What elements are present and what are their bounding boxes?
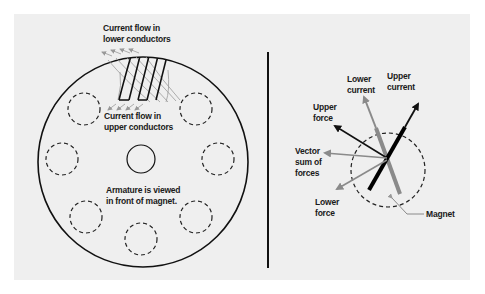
slot-circle bbox=[68, 93, 100, 125]
motor-force-diagram: Current flow in lower conductors Current… bbox=[0, 0, 485, 294]
vector-sum-arrow bbox=[325, 153, 387, 158]
label-armature-note: Armature is viewed in front of magnet. bbox=[106, 185, 183, 206]
slot-circle bbox=[70, 201, 102, 233]
armature-circle bbox=[38, 57, 248, 267]
conductor-windings bbox=[102, 49, 180, 110]
magnet-black-bar bbox=[369, 127, 405, 190]
magnet-gray-bar bbox=[376, 128, 400, 194]
label-upper-current: Upper current bbox=[387, 71, 415, 92]
label-upper-force: Upper force bbox=[313, 102, 339, 123]
label-lower-force: Lower force bbox=[315, 197, 341, 218]
slot-circle bbox=[180, 93, 212, 125]
armature-diagram: Current flow in lower conductors Current… bbox=[38, 23, 248, 267]
slot-circle bbox=[46, 143, 78, 175]
slot-circle bbox=[180, 201, 212, 233]
slot-circle bbox=[125, 223, 157, 255]
label-magnet: Magnet bbox=[426, 209, 455, 219]
slot-circle bbox=[202, 143, 234, 175]
label-lower-current: Lower current bbox=[347, 74, 375, 95]
lower-current-arrow bbox=[364, 97, 376, 128]
rotation-path-circle bbox=[351, 133, 425, 207]
label-vector-sum: Vector sum of forces bbox=[295, 146, 324, 178]
label-lower-conductors: Current flow in lower conductors bbox=[103, 23, 171, 44]
shaft-circle bbox=[127, 145, 155, 173]
upper-current-arrow bbox=[405, 104, 418, 127]
label-upper-conductors: Current flow in upper conductors bbox=[104, 111, 174, 132]
vector-diagram: Lower current Upper current Upper force … bbox=[295, 71, 455, 219]
